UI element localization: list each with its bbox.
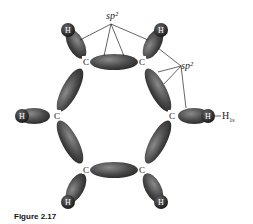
svg-text:C: C xyxy=(83,165,89,175)
svg-text:C: C xyxy=(169,111,175,121)
h1s-label-subscript: 1s xyxy=(229,117,234,123)
svg-text:H: H xyxy=(65,198,71,207)
svg-text:H: H xyxy=(158,26,164,35)
cc-bond-lobes xyxy=(52,54,177,178)
svg-text:C: C xyxy=(139,57,145,67)
svg-text:C: C xyxy=(83,57,89,67)
ch-bond-lobes xyxy=(18,26,210,206)
svg-text:H: H xyxy=(205,112,211,121)
svg-text:C: C xyxy=(54,111,60,121)
sp2-label-right: sp² xyxy=(181,60,193,71)
svg-text:H: H xyxy=(158,198,164,207)
benzene-orbital-diagram: H H H H H H C C C C C C xyxy=(0,0,253,224)
figure-caption: Figure 2.17 xyxy=(14,212,56,221)
svg-text:H: H xyxy=(65,26,71,35)
h1s-label: H1s xyxy=(222,110,235,123)
svg-text:C: C xyxy=(139,165,145,175)
sp2-label-top: sp² xyxy=(106,10,118,21)
svg-text:H: H xyxy=(19,112,25,121)
